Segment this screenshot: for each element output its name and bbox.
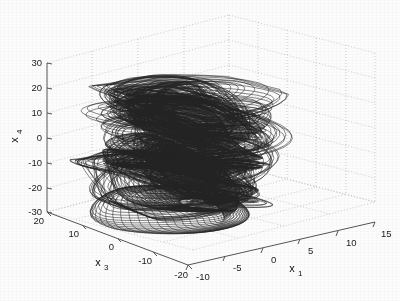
- tick-label-x4-neg20: -20: [28, 182, 42, 193]
- axis-label-x4-main: x: [8, 137, 20, 143]
- tick-label-x4-20: 20: [31, 82, 42, 93]
- axis-label-x3: x 3: [95, 256, 109, 272]
- tick-label-x4-10: 10: [31, 107, 42, 118]
- tick-labels-x4: 30 20 10 0 -10 -20 -30: [28, 57, 42, 217]
- tick-label-x1-10: 10: [346, 237, 357, 248]
- tick-label-x3-10: 10: [68, 228, 79, 239]
- tick-label-x1-5: 5: [308, 245, 313, 256]
- axis-label-x3-sub: 3: [104, 263, 109, 272]
- tick-label-x4-0: 0: [37, 132, 42, 143]
- tick-label-x1-neg5: -5: [233, 262, 241, 273]
- tick-label-x1-15: 15: [381, 228, 392, 239]
- trajectory-curve: [70, 75, 292, 234]
- axis-label-x1: x 1: [289, 262, 303, 278]
- tick-label-x3-neg20: -20: [174, 269, 188, 280]
- axis-label-x3-main: x: [95, 256, 101, 268]
- axis-label-x1-main: x: [289, 262, 295, 274]
- axis-label-x4-sub: 4: [15, 129, 24, 134]
- tick-label-x1-neg10: -10: [196, 271, 210, 282]
- axis-label-x4: x 4: [8, 129, 24, 143]
- tick-label-x3-neg10: -10: [138, 255, 152, 266]
- three-d-plot: 30 20 10 0 -10 -20 -30 20 10 0 -10 -20 -…: [0, 0, 400, 301]
- tick-label-x3-0: 0: [109, 241, 114, 252]
- axis-label-x1-sub: 1: [298, 269, 303, 278]
- tick-label-x3-20: 20: [33, 215, 44, 226]
- tick-label-x1-0: 0: [271, 254, 276, 265]
- tickmarks-x4: [47, 63, 52, 213]
- tick-label-x4-neg10: -10: [28, 157, 42, 168]
- tick-label-x4-30: 30: [31, 57, 42, 68]
- figure-canvas: 30 20 10 0 -10 -20 -30 20 10 0 -10 -20 -…: [0, 0, 400, 301]
